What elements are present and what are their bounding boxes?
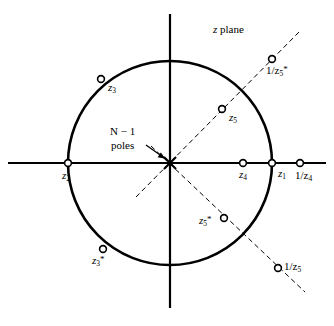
- label-inverse-z4: 1/z4: [295, 170, 312, 183]
- label-inverse-z5: 1/z5: [284, 261, 301, 274]
- z-plane-figure: z plane N − 1 poles z1 z2 z3 z3* z4 z5 z…: [0, 0, 334, 326]
- zero-marker-inverse-z5: [275, 265, 282, 272]
- label-inverse-z5-conjugate-main: 1/z: [266, 64, 279, 76]
- label-z3-conjugate-star: *: [100, 254, 105, 264]
- zero-marker-z5-conjugate: [221, 215, 228, 222]
- label-z1: z1: [278, 168, 286, 181]
- dashed-line-z5: [136, 31, 300, 197]
- label-z5-conjugate-star: *: [207, 214, 212, 224]
- label-inverse-z4-sub: 4: [308, 174, 312, 183]
- label-inverse-z5-conjugate-star: *: [283, 64, 288, 74]
- label-z5-sub: 5: [233, 116, 237, 125]
- plane-title-text: plane: [217, 23, 244, 35]
- label-z5-conjugate: z5*: [199, 215, 212, 228]
- zero-marker-z3: [98, 76, 105, 83]
- label-inverse-z5-conjugate: 1/z5*: [266, 65, 288, 78]
- zero-marker-z3-conjugate: [100, 246, 107, 253]
- z-plane-diagram-canvas: [0, 0, 334, 326]
- zero-marker-z1: [269, 160, 276, 167]
- label-z3: z3: [108, 82, 116, 95]
- zero-marker-z4: [240, 160, 247, 167]
- label-z4-sub: 4: [243, 173, 247, 182]
- poles-annotation-line1: N − 1: [110, 125, 135, 139]
- poles-leader-arrow-icon: [146, 145, 166, 159]
- poles-annotation: N − 1 poles: [110, 125, 135, 153]
- label-z3-conjugate: z3*: [92, 255, 105, 268]
- label-z5: z5: [229, 112, 237, 125]
- label-z2: z2: [62, 170, 70, 183]
- zero-marker-z5: [219, 106, 226, 113]
- poles-annotation-line2: poles: [110, 139, 135, 153]
- zero-marker-inverse-z5-conjugate: [269, 56, 276, 63]
- label-z1-sub: 1: [282, 172, 286, 181]
- label-z2-sub: 2: [66, 174, 70, 183]
- label-inverse-z4-main: 1/z: [295, 169, 308, 181]
- label-inverse-z5-sub: 5: [297, 265, 301, 274]
- plane-title: z plane: [213, 24, 244, 35]
- label-z4: z4: [239, 169, 247, 182]
- label-z3-sub: 3: [112, 86, 116, 95]
- label-inverse-z5-main: 1/z: [284, 260, 297, 272]
- zero-marker-inverse-z4: [297, 160, 304, 167]
- zero-marker-z2: [65, 160, 72, 167]
